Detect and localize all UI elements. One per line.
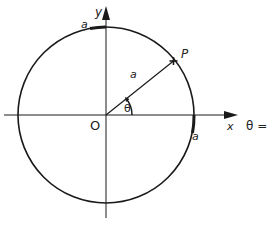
radius-line: [106, 61, 174, 115]
theta-zero-label: θ = 0: [246, 119, 270, 133]
point-p-label: P: [181, 47, 189, 61]
arc-segment-top: [90, 27, 106, 29]
radius-label: a: [130, 68, 137, 81]
arc-right-label: a: [192, 130, 199, 143]
x-axis-label: x: [226, 120, 234, 133]
y-axis-arrow-icon: [102, 6, 110, 20]
y-axis-label: y: [94, 5, 103, 19]
angle-label: θ: [124, 102, 131, 115]
polar-circle-diagram: y a P a θ O x θ = 0 a: [0, 0, 270, 227]
x-axis-arrow-icon: [224, 111, 238, 119]
arc-top-label: a: [81, 18, 88, 31]
origin-label: O: [90, 118, 100, 133]
